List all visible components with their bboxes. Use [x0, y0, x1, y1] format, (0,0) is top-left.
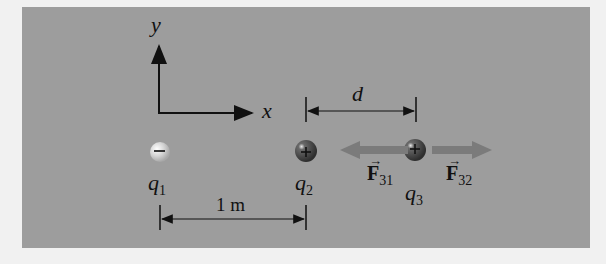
- force-label-f31: →F31: [367, 163, 393, 188]
- force-arrow-f32: [432, 141, 492, 159]
- charge-label-q3: q3: [405, 182, 423, 208]
- charge-q2-positive: [295, 140, 317, 162]
- charge-label-q1: q1: [148, 172, 166, 198]
- y-axis-label: y: [151, 14, 161, 36]
- diagram-graphics: [0, 0, 606, 264]
- charge-q1-negative: [150, 142, 170, 162]
- charge-label-q2: q2: [295, 172, 313, 198]
- dimension-label-1m: 1 m: [216, 195, 245, 214]
- coordinate-axes: [158, 46, 252, 114]
- x-axis-label: x: [262, 100, 272, 122]
- dimension-label-d: d: [352, 83, 363, 105]
- force-label-f32: →F32: [446, 163, 472, 188]
